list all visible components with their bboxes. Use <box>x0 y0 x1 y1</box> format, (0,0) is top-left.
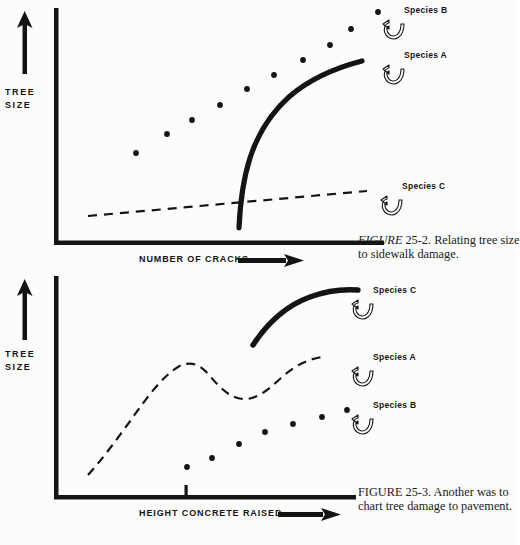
series-species-c-curve <box>253 290 358 345</box>
series-species-a-dashed-curve <box>88 357 322 475</box>
series-species-a-curve <box>239 61 362 228</box>
series-label-species-b: Species B <box>404 5 447 15</box>
x-axis-label-25-3: HEIGHT CONCRETE RAISED <box>139 508 282 518</box>
series-species-b-dots <box>184 407 350 470</box>
series-label-species-a: Species A <box>373 352 416 362</box>
chart-canvas-25-2 <box>0 0 517 272</box>
series-label-species-c: Species C <box>402 181 445 191</box>
curved-hook-arrow-icon <box>381 196 402 215</box>
series-label-species-b: Species B <box>373 400 416 410</box>
curved-hook-arrow-icon <box>383 20 404 39</box>
figure-25-2: TREE SIZE NUMBER OF CRACKS Species B Spe… <box>0 0 517 272</box>
caption-figure-word: FIGURE <box>358 233 402 247</box>
caption-figure-number: 25-2. <box>402 233 431 247</box>
y-axis-label-25-3: TREE SIZE <box>5 348 35 374</box>
caption-25-2: FIGURE 25-2. Relating tree size to sidew… <box>358 234 520 261</box>
curved-hook-arrow-icon <box>383 65 404 84</box>
y-axis-line <box>54 276 59 499</box>
curved-hook-arrow-icon <box>352 300 373 319</box>
series-label-species-c: Species C <box>373 285 416 295</box>
caption-figure-word: FIGURE <box>358 485 402 499</box>
series-label-species-a: Species A <box>404 50 447 60</box>
caption-figure-number: 25-3. <box>402 485 431 499</box>
caption-25-3: FIGURE 25-3. Another was to chart tree d… <box>358 486 520 513</box>
y-axis-line <box>54 8 59 245</box>
right-arrow-icon <box>278 508 341 521</box>
y-axis-label-line1: TREE <box>5 86 35 99</box>
series-species-b-dots <box>133 9 381 156</box>
x-axis-tick <box>185 485 188 496</box>
y-axis-label-25-2: TREE SIZE <box>5 86 35 112</box>
y-axis-label-line1: TREE <box>5 348 35 361</box>
y-axis-label-line2: SIZE <box>5 99 35 112</box>
curved-hook-arrow-icon <box>352 367 373 386</box>
up-arrow-icon <box>17 279 33 340</box>
x-axis-label-25-2: NUMBER OF CRACKS <box>139 254 249 264</box>
x-axis-line <box>54 495 356 500</box>
figure-25-3: TREE SIZE HEIGHT CONCRETE RAISED Species… <box>0 272 517 545</box>
series-species-c-dashed-line <box>88 191 367 216</box>
y-axis-label-line2: SIZE <box>5 361 35 374</box>
up-arrow-icon <box>17 11 33 74</box>
curved-hook-arrow-icon <box>352 415 373 434</box>
x-axis-line <box>54 241 384 246</box>
